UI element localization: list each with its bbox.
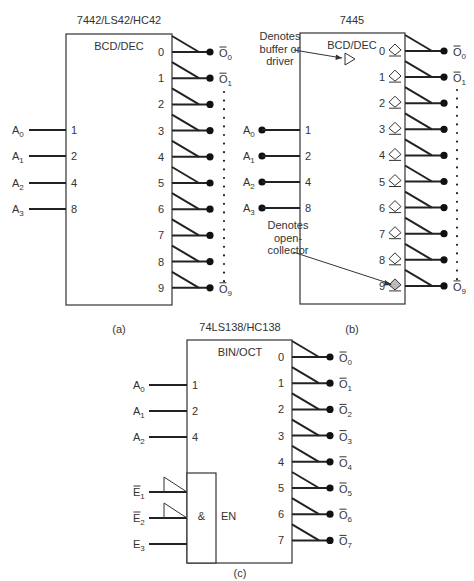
ellipsis-dot [223, 168, 225, 170]
output-label: O2 [339, 404, 353, 419]
active-low-indicator [405, 61, 432, 77]
output-label: O1 [219, 73, 233, 88]
ellipsis-dot [223, 100, 225, 102]
active-low-indicator [405, 139, 432, 155]
input-label: A2 [243, 176, 255, 191]
ellipsis-dot [456, 201, 458, 203]
output-dot [206, 258, 213, 265]
output-dot [206, 75, 213, 82]
input-weight: 1 [71, 124, 77, 136]
caption: (a) [112, 323, 125, 335]
annotation-open-collector-text: open- [274, 232, 302, 244]
output-index: 5 [278, 482, 284, 494]
ellipsis-dot [456, 261, 458, 263]
output-dot [326, 380, 333, 387]
output-dot [326, 537, 333, 544]
decoder-figure: 7442/LS42/HC42BCD/DECA01A12A24A380123456… [0, 0, 474, 581]
active-low-input-indicator [164, 477, 187, 492]
ellipsis-dot [223, 263, 225, 265]
input-weight: 8 [71, 203, 77, 215]
ellipsis-dot [223, 237, 225, 239]
output-label: O9 [219, 283, 233, 298]
output-index: 2 [379, 97, 385, 109]
active-low-indicator [405, 192, 432, 208]
output-index: 7 [278, 534, 284, 546]
input-weight: 4 [71, 177, 77, 189]
ellipsis-dot [456, 252, 458, 254]
output-dot [440, 178, 447, 185]
output-index: 4 [379, 149, 385, 161]
active-low-indicator [405, 87, 432, 103]
output-index: 6 [379, 202, 385, 214]
annotation-open-collector-text: collector [268, 244, 309, 256]
input-weight: 4 [305, 176, 311, 188]
output-dot [206, 101, 213, 108]
ellipsis-dot [223, 203, 225, 205]
annotation-buffer-text: driver [266, 55, 294, 67]
active-low-indicator [172, 193, 199, 209]
input-weight: 8 [305, 202, 311, 214]
caption: (b) [345, 323, 358, 335]
ellipsis-dot [456, 227, 458, 229]
output-index: 6 [278, 508, 284, 520]
active-low-indicator [405, 166, 432, 182]
output-index: 6 [158, 203, 164, 215]
ellipsis-dot [456, 132, 458, 134]
output-index: 4 [278, 456, 284, 468]
active-low-indicator [172, 167, 199, 183]
output-dot [326, 484, 333, 491]
output-dot [326, 432, 333, 439]
ellipsis-dot [223, 272, 225, 274]
ellipsis-dot [456, 184, 458, 186]
and-gate-label: & [198, 510, 206, 522]
output-dot [440, 204, 447, 211]
ellipsis-dot [456, 98, 458, 100]
ellipsis-dot [456, 244, 458, 246]
output-dot [440, 126, 447, 133]
ellipsis-dot [223, 143, 225, 145]
enable-label: EN [221, 510, 236, 522]
function-label: BIN/OCT [218, 346, 263, 358]
ellipsis-dot [456, 218, 458, 220]
decoder-74138: 74LS138/HC138BIN/OCT&ENA01A12A24E1E2E301… [133, 321, 353, 579]
active-low-indicator [405, 270, 432, 286]
ellipsis-dot [223, 194, 225, 196]
output-index: 4 [158, 151, 164, 163]
ellipsis-dot [456, 270, 458, 272]
output-index: 2 [158, 98, 164, 110]
input-weight: 2 [305, 150, 311, 162]
output-dot [206, 206, 213, 213]
input-weight: 1 [192, 379, 198, 391]
input-label: A1 [133, 405, 145, 420]
active-low-indicator [405, 113, 432, 129]
ellipsis-dot [223, 125, 225, 127]
input-label: A3 [12, 203, 24, 218]
active-low-indicator [405, 218, 432, 234]
active-low-indicator [172, 62, 199, 78]
output-label: O0 [339, 352, 353, 367]
ellipsis-dot [456, 209, 458, 211]
input-label: A2 [12, 177, 24, 192]
ellipsis-dot [456, 192, 458, 194]
output-dot [206, 284, 213, 291]
output-label: O9 [453, 281, 467, 296]
output-label: O3 [339, 431, 353, 446]
input-label: A0 [243, 124, 255, 139]
active-low-indicator [172, 246, 199, 262]
active-low-indicator [405, 244, 432, 260]
output-dot [440, 74, 447, 81]
output-dot [440, 47, 447, 54]
output-index: 0 [379, 45, 385, 57]
active-low-indicator [292, 367, 319, 383]
output-dot [326, 511, 333, 518]
ellipsis-dot [456, 175, 458, 177]
caption: (c) [234, 567, 247, 579]
input-weight: 1 [305, 124, 311, 136]
output-label: O5 [339, 483, 353, 498]
ellipsis-dot [223, 254, 225, 256]
active-low-indicator [292, 446, 319, 462]
output-index: 1 [379, 71, 385, 83]
output-dot [440, 282, 447, 289]
output-label: O6 [339, 509, 353, 524]
output-index: 1 [278, 377, 284, 389]
